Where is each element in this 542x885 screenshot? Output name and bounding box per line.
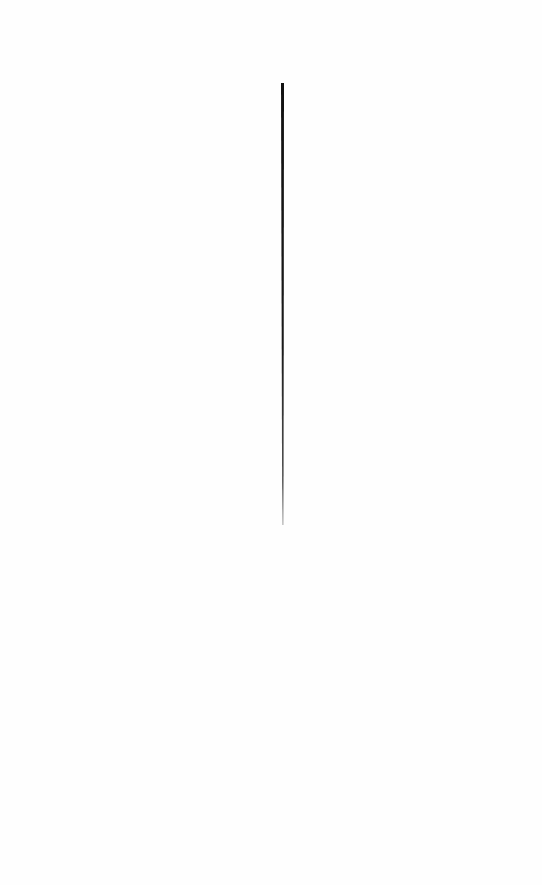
blank-canvas	[0, 0, 542, 885]
vertical-line	[281, 83, 284, 525]
